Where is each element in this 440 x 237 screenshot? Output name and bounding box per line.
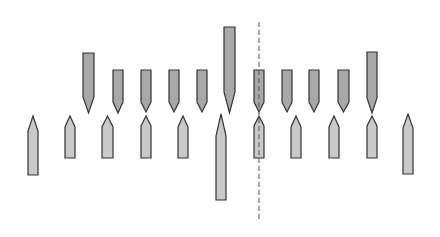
top-pointed-bar-3 xyxy=(141,70,151,112)
bottom-pointed-bar-2 xyxy=(65,116,75,158)
top-pointed-bar-8 xyxy=(282,70,292,112)
bottom-pointed-bar-6 xyxy=(216,114,226,200)
top-pointed-bar-6 xyxy=(224,27,235,113)
bottom-pointed-bar-5 xyxy=(178,116,188,158)
top-pointed-bar-9 xyxy=(309,70,319,112)
top-pointed-bar-11 xyxy=(367,52,377,113)
bottom-pointed-bar-4 xyxy=(141,116,151,158)
bottom-pointed-bar-8 xyxy=(291,116,301,158)
diagram-svg xyxy=(0,0,440,237)
top-pointed-bar-4 xyxy=(169,70,179,112)
bottom-pointed-bar-1 xyxy=(28,116,38,175)
pointed-bars-diagram xyxy=(0,0,440,237)
top-pointed-bar-10 xyxy=(338,70,349,112)
bottom-pointed-bar-10 xyxy=(367,116,377,158)
bottom-pointed-bar-11 xyxy=(403,114,413,174)
top-pointed-bar-2 xyxy=(113,70,123,113)
top-pointed-bar-5 xyxy=(197,70,207,112)
bottom-pointed-bar-9 xyxy=(329,116,339,158)
